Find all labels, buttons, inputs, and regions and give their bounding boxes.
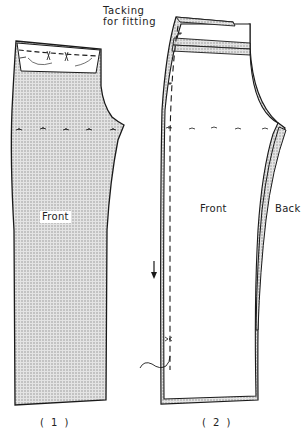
- figure-1: [11, 41, 124, 405]
- direction-arrow-icon: [151, 261, 157, 279]
- figure-2-caption: ( 2 ): [202, 418, 233, 428]
- figure-2-back-label: Back: [275, 204, 300, 214]
- figure-2-front-label: Front: [200, 204, 227, 214]
- figure-1-caption: ( 1 ): [40, 418, 71, 428]
- title-line-2: for fitting: [103, 16, 156, 27]
- figure-1-front-label: Front: [40, 211, 71, 223]
- diagram-title: Tackingfor fitting: [103, 5, 156, 27]
- pant-front-piece: [11, 41, 124, 405]
- title-line-1: Tacking: [103, 5, 145, 16]
